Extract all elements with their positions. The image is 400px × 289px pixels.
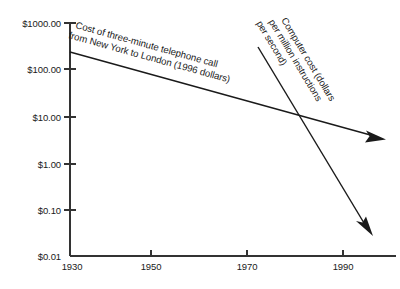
x-tick-label-1970: 1970 — [237, 261, 258, 272]
y-tick-label-100: $100.00 — [27, 64, 61, 75]
series-telephone-cost — [70, 52, 386, 143]
cost-decline-line-chart: $1000.00 $100.00 $10.00 $1.00 $0.10 $0.0… — [0, 0, 400, 289]
telephone-cost-arrowhead — [365, 131, 386, 143]
x-tick-label-1930: 1930 — [62, 261, 83, 272]
y-tick-label-0-01: $0.01 — [38, 251, 61, 262]
computer-cost-arrowhead — [356, 217, 373, 237]
y-tick-labels: $1000.00 $100.00 $10.00 $1.00 $0.10 $0.0… — [22, 18, 61, 262]
x-tick-labels: 1930 1950 1970 1990 — [62, 261, 354, 272]
x-tick-marks — [151, 250, 343, 256]
y-tick-label-10: $10.00 — [33, 112, 61, 123]
y-tick-label-0-10: $0.10 — [38, 205, 61, 216]
axes-group — [70, 22, 396, 256]
chart-container: $1000.00 $100.00 $10.00 $1.00 $0.10 $0.0… — [0, 0, 400, 289]
x-tick-label-1990: 1990 — [333, 261, 354, 272]
y-tick-label-1: $1.00 — [38, 159, 61, 170]
y-tick-label-1000: $1000.00 — [22, 18, 61, 29]
x-tick-label-1950: 1950 — [141, 261, 162, 272]
